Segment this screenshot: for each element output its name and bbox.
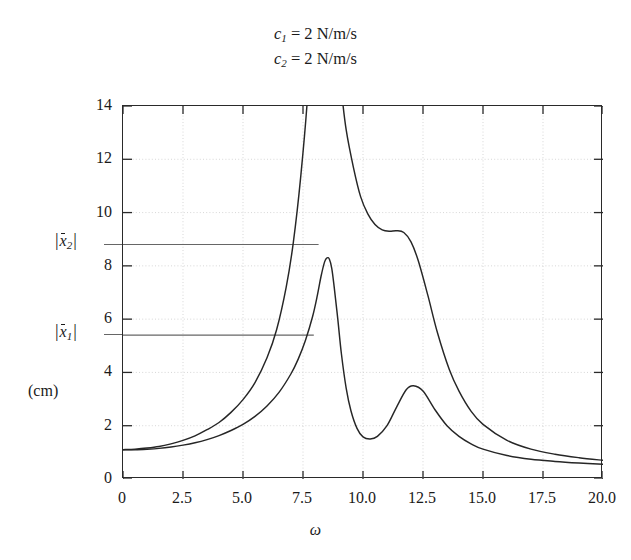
y-tick-label: 4 [66,363,112,379]
y-tick-label: 14 [66,97,112,113]
title-rest-1: = 2 N/m/s [291,24,357,43]
y-tick-label: 10 [66,204,112,220]
vbar-right-x2: | [72,230,78,250]
overbar-x2 [61,233,65,234]
overbar-x1 [61,324,65,325]
plot-area [122,105,602,478]
reference-lines [123,245,319,336]
refline-symbol-x2: x [60,232,67,249]
chart-title: c1 = 2 N/m/s c2 = 2 N/m/s [0,22,631,71]
chart-title-line-2: c2 = 2 N/m/s [0,47,631,72]
refline-label-x1: |x1| [54,323,78,344]
gridlines [123,106,603,479]
ref-leader-x1 [104,334,122,335]
title-rest-2: = 2 N/m/s [291,49,357,68]
y-tick-label: 6 [66,310,112,326]
y-tick-label: 12 [66,150,112,166]
y-axis-unit-label: (cm) [28,382,58,400]
title-sub-1: 1 [281,32,287,44]
x-tick-label: 20.0 [567,490,631,506]
y-tick-label: 0 [66,470,112,486]
title-sub-2: 2 [281,57,287,69]
plot-canvas [123,106,603,479]
ref-leader-x2 [104,244,122,245]
y-tick-label: 8 [66,257,112,273]
chart-title-line-1: c1 = 2 N/m/s [0,22,631,47]
x-axis-label: ω [0,521,631,539]
refline-label-x2: |x2| [54,232,78,253]
y-tick-label: 2 [66,417,112,433]
figure-chart-frequency-response: c1 = 2 N/m/s c2 = 2 N/m/s |x2| |x1| (cm)… [0,0,631,560]
